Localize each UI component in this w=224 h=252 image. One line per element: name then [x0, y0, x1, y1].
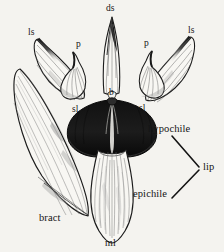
label-hypochile: hypochile — [148, 124, 190, 135]
label-lip: lip — [203, 162, 214, 173]
label-sl-left: sl — [72, 105, 79, 115]
label-p-right: p — [144, 39, 149, 49]
label-bract: bract — [39, 213, 61, 224]
label-ls-left: ls — [28, 28, 35, 38]
label-epichile: epichile — [133, 189, 167, 200]
orchid-dissection-drawing — [0, 0, 224, 252]
label-p-left: p — [76, 40, 81, 50]
epichile-shape — [91, 150, 133, 243]
label-ds: ds — [106, 4, 115, 14]
label-ls-right: ls — [188, 26, 195, 36]
lip-bracket-lines — [172, 136, 199, 198]
label-b: b — [109, 88, 114, 98]
botanical-figure: ds ls ls p p sl sl b hypochile epichile … — [0, 0, 224, 252]
label-ml: ml — [105, 238, 116, 248]
label-sl-right: sl — [139, 104, 146, 114]
